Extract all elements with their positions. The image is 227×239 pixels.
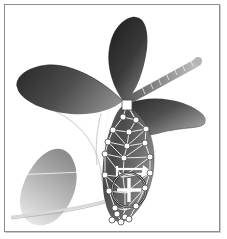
lattice-control-point[interactable] [133,117,139,123]
selection-status: Lattice [0,0,1,1]
lattice-control-point[interactable] [114,211,120,217]
deformer-name: lattice-deformation-cage [0,0,1,1]
lattice-control-point[interactable] [126,216,132,222]
lattice-control-point[interactable] [118,219,124,225]
lattice-control-point[interactable] [105,139,111,145]
lattice-control-point[interactable] [120,114,126,120]
lattice-control-point[interactable] [102,172,108,178]
lattice-control-point[interactable] [133,203,139,209]
pivot-anchor-handle[interactable] [122,100,132,110]
lattice-control-point[interactable] [112,205,118,211]
gizmo-label: Move / Rotate [0,0,1,1]
direction-widget-label: Axis direction [0,0,1,1]
lattice-control-point[interactable] [106,188,112,194]
render-mode: shaded-grayscale [0,0,1,1]
perspective-viewport[interactable] [4,4,220,232]
scene-render[interactable] [5,5,219,231]
transform-gizmo[interactable] [112,173,146,207]
lattice-control-point[interactable] [142,185,148,191]
lattice-control-point[interactable] [147,170,153,176]
app-title: 3D Viewport [0,0,1,1]
application-window: 3D Viewport [0,0,227,239]
lattice-control-point[interactable] [147,154,153,160]
lattice-control-point[interactable] [143,126,149,132]
tool-status: Move [0,0,1,1]
lattice-control-point[interactable] [121,155,127,161]
lattice-control-point[interactable] [109,217,115,223]
lattice-control-point[interactable] [142,140,148,146]
lattice-control-point[interactable] [124,143,130,149]
lattice-control-point[interactable] [102,151,108,157]
model-description: Grayscale shaded orchid flower with peta… [0,0,1,1]
lattice-control-point[interactable] [126,129,132,135]
model-name: orchid-flower-model [0,0,1,1]
lattice-control-point[interactable] [110,127,116,133]
